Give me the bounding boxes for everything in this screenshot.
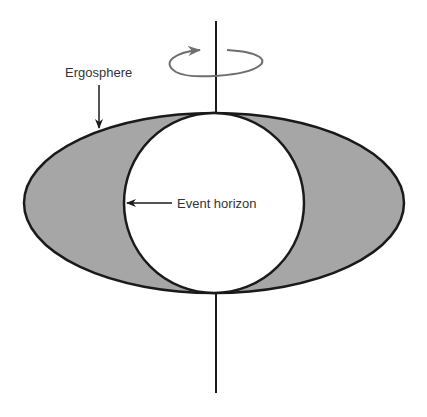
ergosphere-label: Ergosphere: [65, 65, 132, 80]
event-horizon-label: Event horizon: [177, 196, 257, 211]
black-hole-diagram: Ergosphere Event horizon: [0, 0, 427, 417]
